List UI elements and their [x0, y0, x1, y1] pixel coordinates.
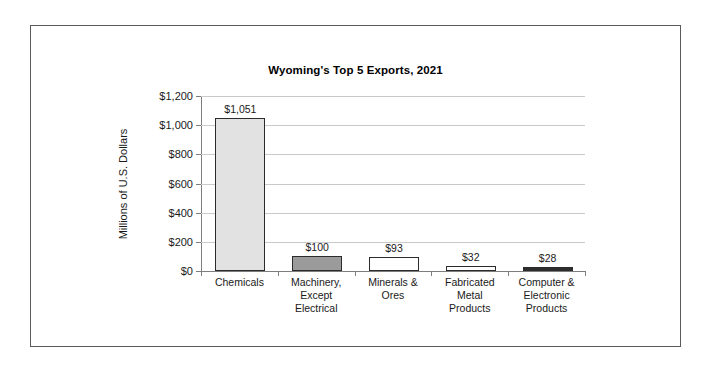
bar-slot: $93: [356, 96, 433, 271]
x-axis-category-line: Electronic: [508, 289, 585, 302]
y-axis-tick-label: $1,200: [159, 90, 193, 102]
bar-value-label: $93: [385, 242, 403, 254]
figure-frame: Wyoming's Top 5 Exports, 2021 Millions o…: [30, 25, 681, 347]
y-axis-tick-label: $600: [169, 178, 193, 190]
x-axis-category-label: Minerals &Ores: [355, 276, 432, 302]
bar[interactable]: [292, 256, 342, 271]
plot-area: $1,051$100$93$32$28 $0$200$400$600$800$1…: [201, 96, 585, 271]
y-axis-tick: [196, 125, 201, 126]
x-axis-category-line: Electrical: [278, 302, 355, 315]
y-axis-tick-label: $200: [169, 236, 193, 248]
bar-slot: $32: [432, 96, 509, 271]
y-axis-tick-label: $400: [169, 207, 193, 219]
x-axis-category-label: Computer &ElectronicProducts: [508, 276, 585, 315]
bar-value-label: $32: [462, 251, 480, 263]
bars-group: $1,051$100$93$32$28: [202, 96, 585, 271]
x-axis-tick: [585, 271, 586, 276]
chart-title: Wyoming's Top 5 Exports, 2021: [31, 64, 680, 76]
y-axis-tick: [196, 154, 201, 155]
x-axis-category-line: Minerals &: [355, 276, 432, 289]
y-axis-tick: [196, 96, 201, 97]
y-axis-title: Millions of U.S. Dollars: [117, 104, 129, 264]
bar-slot: $100: [279, 96, 356, 271]
bar-value-label: $28: [539, 252, 557, 264]
x-axis-category-line: Metal: [431, 289, 508, 302]
x-axis-category-label: Machinery,ExceptElectrical: [278, 276, 355, 315]
y-axis-tick: [196, 213, 201, 214]
bar-value-label: $100: [306, 241, 329, 253]
x-axis-category-label: FabricatedMetalProducts: [431, 276, 508, 315]
x-axis-category-line: Products: [508, 302, 585, 315]
x-axis-category-line: Computer &: [508, 276, 585, 289]
bar-value-label: $1,051: [224, 103, 256, 115]
bar-slot: $28: [509, 96, 586, 271]
y-axis-tick: [196, 184, 201, 185]
x-axis-category-line: Ores: [355, 289, 432, 302]
y-axis-tick-label: $1,000: [159, 119, 193, 131]
x-axis-labels: ChemicalsMachinery,ExceptElectricalMiner…: [201, 276, 585, 346]
x-axis-category-label: Chemicals: [201, 276, 278, 289]
y-axis-tick: [196, 242, 201, 243]
bar[interactable]: [215, 118, 265, 271]
y-axis-tick-label: $0: [181, 265, 193, 277]
x-axis-category-line: Products: [431, 302, 508, 315]
y-axis-tick-label: $800: [169, 148, 193, 160]
x-axis-category-line: Except: [278, 289, 355, 302]
x-axis-category-line: Fabricated: [431, 276, 508, 289]
x-axis-category-line: Chemicals: [201, 276, 278, 289]
x-axis-category-line: Machinery,: [278, 276, 355, 289]
bar-slot: $1,051: [202, 96, 279, 271]
bar[interactable]: [369, 257, 419, 271]
